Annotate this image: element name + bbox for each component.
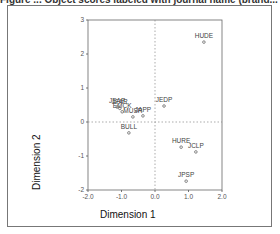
scatter-chart: -2.0-1.00.01.02.03210-1-2Dimension 1Dime…	[0, 0, 280, 234]
data-point-label: JCLP	[188, 142, 204, 149]
data-point-label: JAPP	[135, 106, 151, 113]
y-tick-label: 1	[80, 84, 84, 91]
x-tick-label: 1.0	[184, 193, 193, 200]
y-tick-label: -2	[78, 186, 84, 193]
data-point-label: JEDP	[156, 96, 173, 103]
data-point-label: JPSP	[178, 171, 194, 178]
data-point-marker	[180, 146, 183, 149]
y-tick-label: 2	[80, 50, 84, 57]
x-tick-label: 2.0	[217, 193, 226, 200]
y-tick-label: 3	[80, 16, 84, 23]
data-point-marker	[132, 116, 135, 119]
x-tick-label: -2.0	[82, 193, 94, 200]
data-point-label: HUDE	[195, 32, 214, 39]
x-axis-title: Dimension 1	[100, 209, 156, 220]
x-tick-label: 0.0	[150, 193, 159, 200]
data-point-marker	[163, 105, 166, 108]
data-point-marker	[203, 41, 206, 44]
data-point-marker	[185, 180, 188, 183]
data-point-marker	[142, 115, 145, 118]
y-tick-label: 0	[80, 118, 84, 125]
y-axis-title: Dimension 2	[31, 134, 42, 190]
y-tick-label: -1	[78, 152, 84, 159]
data-point-label: BULL	[121, 123, 138, 130]
x-tick-label: -1.0	[116, 193, 128, 200]
data-point-marker	[195, 151, 198, 154]
data-point-marker	[128, 132, 131, 135]
